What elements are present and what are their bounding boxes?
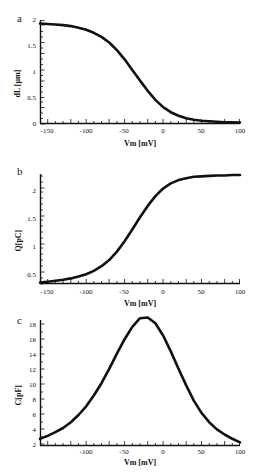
panel-c: c C[pF] 18 16 14 12 10 8 6 4 2 [0, 312, 261, 476]
panel-a-ytick-1: 0.5 [18, 94, 36, 102]
panel-c-ytick-6: 14 [18, 351, 36, 359]
panel-c-xtick-0: -100 [76, 448, 96, 456]
panel-a-ytick-4: 2 [18, 16, 36, 24]
panel-c-ytick-3: 8 [18, 396, 36, 404]
panel-a-xtick-4: 50 [191, 127, 211, 135]
panel-b-axes [40, 174, 240, 284]
panel-b-svg [40, 174, 240, 286]
panel-c-ytick-2: 6 [18, 411, 36, 419]
panel-c-xtick-1: -50 [114, 448, 134, 456]
panel-b-ytick-2: 1.5 [18, 215, 36, 223]
panel-c-xlabel: Vm [mV] [100, 458, 180, 467]
panel-a-curve [40, 24, 240, 123]
panel-c-xtick-4: 100 [230, 448, 250, 456]
figure-root: a dL [µm] 2 1.5 1 0.5 0 [0, 0, 261, 476]
panel-c-ytick-5: 12 [18, 366, 36, 374]
panel-c-plot-area [40, 320, 240, 448]
panel-a-ytick-2: 1 [18, 68, 36, 76]
panel-a: a dL [µm] 2 1.5 1 0.5 0 [0, 0, 261, 155]
panel-b-letter: b [17, 165, 23, 177]
panel-a-xtick-0: -150 [37, 127, 57, 135]
panel-b-xtick-3: 0 [153, 288, 173, 296]
panel-b-ytick-3: 2 [18, 187, 36, 195]
panel-a-plot-area [40, 20, 240, 126]
panel-c-curve [40, 318, 240, 443]
panel-a-xtick-3: 0 [153, 127, 173, 135]
panel-c-ytick-4: 10 [18, 381, 36, 389]
panel-c-axes [40, 320, 240, 446]
panel-a-ytick-0: 0 [18, 120, 36, 128]
panel-a-axes [40, 20, 240, 124]
panel-b-xtick-1: -100 [76, 288, 96, 296]
panel-c-ytick-8: 18 [18, 321, 36, 329]
panel-b-xtick-4: 50 [191, 288, 211, 296]
panel-c-xtick-3: 50 [191, 448, 211, 456]
panel-a-svg [40, 20, 240, 126]
panel-b: b Q[pC] 2 1.5 1 0.5 [0, 160, 261, 315]
panel-a-ytick-3: 1.5 [18, 42, 36, 50]
panel-a-xtick-5: 100 [230, 127, 250, 135]
panel-b-xtick-5: 100 [230, 288, 250, 296]
panel-c-ytick-1: 4 [18, 426, 36, 434]
panel-c-svg [40, 320, 240, 448]
panel-b-ytick-0: 0.5 [18, 271, 36, 279]
panel-b-plot-area [40, 174, 240, 286]
panel-b-ytick-1: 1 [18, 243, 36, 251]
panel-a-xlabel: Vm [mV] [100, 139, 180, 148]
panel-b-xtick-0: -150 [37, 288, 57, 296]
panel-c-xtick-2: 0 [153, 448, 173, 456]
panel-b-xlabel: Vm [mV] [100, 299, 180, 308]
panel-b-curve [40, 175, 240, 283]
panel-c-ytick-0: 2 [18, 441, 36, 449]
panel-c-ytick-7: 16 [18, 336, 36, 344]
panel-b-xtick-2: -50 [114, 288, 134, 296]
panel-a-xtick-1: -100 [76, 127, 96, 135]
panel-a-xtick-2: -50 [114, 127, 134, 135]
